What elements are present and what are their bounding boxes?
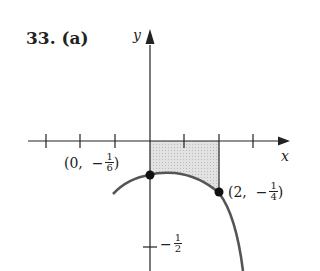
point-label-0: (0, − 16 ) (64, 152, 119, 173)
point-label-1: (2, − 14 ) (228, 181, 283, 202)
x-axis-arrow-icon (278, 137, 290, 146)
function-curve (113, 173, 243, 271)
y-tick-label: − 12 (160, 233, 182, 254)
problem-label: 33. (a) (26, 28, 89, 48)
point-0-neg-sixth (146, 171, 155, 180)
y-axis-label: y (133, 27, 141, 43)
y-axis-arrow-icon (146, 29, 155, 44)
x-axis-label: x (281, 148, 289, 164)
point-2-neg-quarter (215, 188, 224, 197)
